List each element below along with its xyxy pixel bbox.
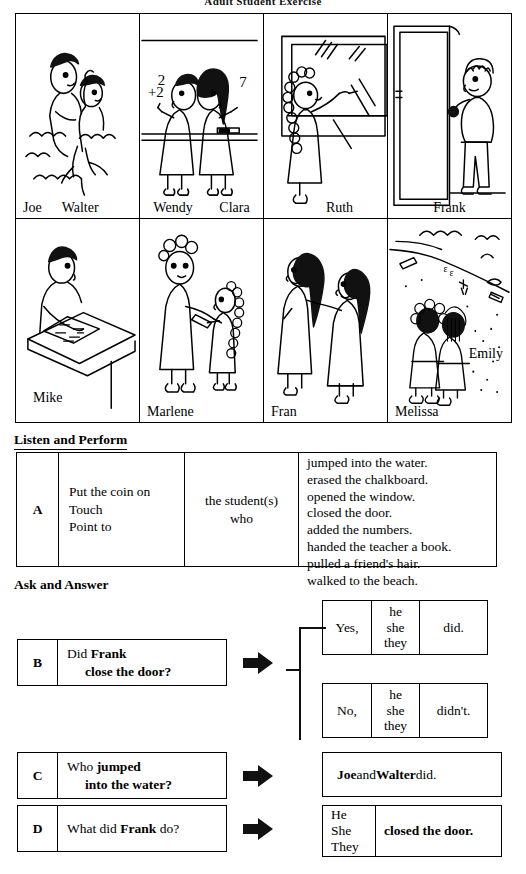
arrow-right-icon-c xyxy=(243,765,273,787)
panel-wendy-clara: 2 +2 7 xyxy=(139,14,263,218)
question-line-1-bold: jumped xyxy=(97,759,141,774)
table-row-letter: A xyxy=(17,453,58,566)
table-cell-who: the student(s) who xyxy=(184,453,298,566)
question-line-2: close the door? xyxy=(67,663,226,680)
answer-box-d: He She They closed the door. xyxy=(322,805,502,857)
answer-polarity: No, xyxy=(323,684,371,737)
pronoun-option: She xyxy=(331,823,351,839)
svg-text:7: 7 xyxy=(239,74,247,90)
action-option: added the numbers. xyxy=(307,522,451,539)
answer-auxiliary: did. xyxy=(419,601,487,654)
pronoun-option: they xyxy=(384,635,407,651)
question-line-1: What did Frank do? xyxy=(67,820,226,837)
answer-polarity: Yes, xyxy=(323,601,371,654)
action-option: erased the chalkboard. xyxy=(307,472,451,489)
question-line-2-bold: into the water? xyxy=(85,777,172,792)
question-letter: B xyxy=(18,640,58,685)
panel-frank: Frank xyxy=(387,14,511,218)
scene-pulled-friends-hair-icon xyxy=(264,219,387,423)
question-line-1-tail: do? xyxy=(156,821,179,836)
panel-fran: Fran xyxy=(263,219,387,423)
action-option: closed the door. xyxy=(307,505,451,522)
answer-pronoun-list: he she they xyxy=(371,601,419,654)
action-option: pulled a friend's hair. xyxy=(307,556,451,573)
question-text: Did Frank close the door? xyxy=(58,640,226,685)
question-line-1-name: Frank xyxy=(91,646,127,661)
action-option: handed the teacher a book. xyxy=(307,539,451,556)
question-line-1-name: Frank xyxy=(120,821,156,836)
illustration-row-2: Mike xyxy=(16,218,511,423)
answer-predicate: closed the door. xyxy=(375,806,501,856)
illustration-grid: Joe Walter 2 +2 7 xyxy=(15,13,512,423)
answer-auxiliary: didn't. xyxy=(419,684,487,737)
svg-text:+2: +2 xyxy=(148,84,164,100)
arrow-right-icon-d xyxy=(243,818,273,840)
answer-conjunction: and xyxy=(357,767,377,783)
answer-tail: did. xyxy=(416,767,437,783)
question-box-b: B Did Frank close the door? xyxy=(17,639,227,686)
question-line-1: Who jumped xyxy=(67,758,226,775)
scene-added-the-numbers-icon: 2 +2 7 xyxy=(140,14,263,218)
panel-joe-walter: Joe Walter xyxy=(16,14,139,218)
verb-option: Put the coin on xyxy=(69,483,150,501)
table-cell-verbs: Put the coin on Touch Point to xyxy=(58,453,184,566)
question-line-1-plain: Who xyxy=(67,759,97,774)
pronoun-option: He xyxy=(331,807,347,823)
action-option: jumped into the water. xyxy=(307,455,451,472)
who-line: who xyxy=(205,510,278,528)
answer-pronoun-list: He She They xyxy=(323,806,375,856)
panel-marlene: Marlene xyxy=(139,219,263,423)
answer-box-c: Joe and Walter did. xyxy=(322,752,502,797)
scene-walked-to-the-beach-icon: ɛ ɛ xyxy=(388,219,511,423)
question-line-2: into the water? xyxy=(67,776,226,793)
pronoun-option: They xyxy=(331,839,359,855)
answer-c-text: Joe and Walter did. xyxy=(337,767,436,783)
pronoun-option: he xyxy=(389,604,402,620)
pronoun-option: they xyxy=(384,718,407,734)
answer-connector-bracket xyxy=(286,600,326,740)
section-heading-listen-and-perform: Listen and Perform xyxy=(14,432,127,450)
answer-box-no: No, he she they didn't. xyxy=(322,683,488,738)
scene-closed-the-door-icon xyxy=(388,14,511,218)
scene-erased-chalkboard-opened-window-icon xyxy=(264,14,387,218)
action-option: opened the window. xyxy=(307,489,451,506)
scene-student-at-desk-icon xyxy=(16,219,139,423)
illustration-row-1: Joe Walter 2 +2 7 xyxy=(16,14,511,218)
who-line: the student(s) xyxy=(205,492,278,510)
section-heading-ask-and-answer: Ask and Answer xyxy=(14,577,109,593)
question-line-1-plain: What did xyxy=(67,821,120,836)
scene-jumping-into-water-icon xyxy=(16,14,139,218)
question-text: Who jumped into the water? xyxy=(58,753,226,798)
panel-name: Emily xyxy=(469,347,503,361)
verb-option: Point to xyxy=(69,518,150,536)
arrow-right-icon-b xyxy=(243,652,273,674)
question-box-c: C Who jumped into the water? xyxy=(17,752,227,799)
question-letter: C xyxy=(18,753,58,798)
panel-ruth: Ruth xyxy=(263,14,387,218)
listen-and-perform-table: A Put the coin on Touch Point to the stu… xyxy=(16,452,497,567)
pronoun-option: he xyxy=(389,687,402,703)
pronoun-option: she xyxy=(387,620,405,636)
question-letter: D xyxy=(18,806,58,851)
svg-text:ɛ: ɛ xyxy=(450,266,454,277)
question-box-d: D What did Frank do? xyxy=(17,805,227,852)
panel-melissa-emily: ɛ ɛ xyxy=(387,219,511,423)
question-text: What did Frank do? xyxy=(58,806,226,851)
scene-handed-teacher-a-book-icon xyxy=(140,219,263,423)
verb-option: Touch xyxy=(69,501,150,519)
svg-text:ɛ: ɛ xyxy=(444,262,448,273)
action-option: walked to the beach. xyxy=(307,573,451,590)
pronoun-option: she xyxy=(387,703,405,719)
answer-name-1: Joe xyxy=(337,767,357,783)
question-line-1: Did Frank xyxy=(67,645,226,662)
answer-name-2: Walter xyxy=(376,767,416,783)
answer-pronoun-list: he she they xyxy=(371,684,419,737)
question-line-1-plain: Did xyxy=(67,646,91,661)
panel-mike: Mike xyxy=(16,219,139,423)
question-line-2-bold: close the door? xyxy=(85,664,171,679)
table-cell-actions: jumped into the water. erased the chalkb… xyxy=(298,453,496,566)
answer-box-yes: Yes, he she they did. xyxy=(322,600,488,655)
page-title: Adult Student Exercise xyxy=(0,0,526,7)
